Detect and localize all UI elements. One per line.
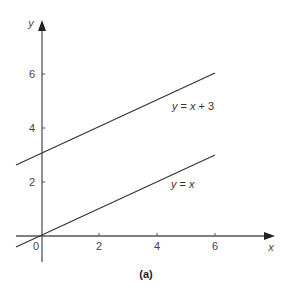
x-axis-label: x — [267, 241, 274, 253]
y-axis-arrow-icon — [38, 20, 46, 31]
x-tick-label: 2 — [96, 240, 102, 252]
figure-caption: (a) — [139, 268, 153, 280]
chart-figure: 2 4 6 2 4 6 0 y x y = x + 3 y = x (a) — [0, 0, 293, 292]
y-tick-label: 2 — [29, 176, 35, 188]
y-tick-label: 4 — [29, 122, 35, 134]
series-label-y-equals-x-plus-3: y = x + 3 — [171, 100, 214, 112]
chart-svg: 2 4 6 2 4 6 0 y x y = x + 3 y = x (a) — [0, 0, 293, 292]
y-tick-label: 6 — [29, 68, 35, 80]
series-label-y-equals-x: y = x — [170, 178, 195, 190]
x-tick-label: 6 — [212, 240, 218, 252]
series-line-y-equals-x — [16, 155, 215, 247]
x-axis-arrow-icon — [264, 232, 275, 240]
y-axis-label: y — [27, 17, 35, 29]
origin-label: 0 — [33, 240, 39, 252]
x-tick-label: 4 — [154, 240, 160, 252]
series-line-y-equals-x-plus-3 — [16, 73, 215, 165]
